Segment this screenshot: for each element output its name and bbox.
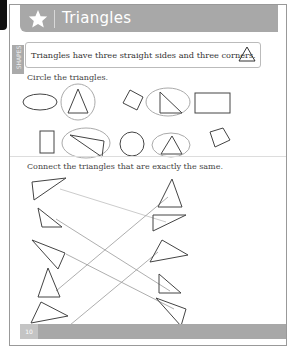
shapes-canvas xyxy=(10,5,286,345)
worksheet-page: Triangles SHAPES Triangles have three st… xyxy=(9,4,287,346)
right-triangle xyxy=(159,274,181,293)
match-line xyxy=(60,189,166,222)
shape-oval xyxy=(23,94,57,110)
left-triangle xyxy=(38,208,62,227)
corner-tab xyxy=(0,0,7,30)
answer-circle xyxy=(146,88,190,116)
connect-instruction: Connect the triangles that are exactly t… xyxy=(27,162,223,171)
shape-square xyxy=(210,128,230,147)
left-triangle xyxy=(31,302,68,323)
match-line xyxy=(64,252,158,330)
shape-rectangle xyxy=(195,93,230,113)
page-footer: 10 xyxy=(20,324,286,339)
answer-circle xyxy=(152,133,190,157)
right-triangle xyxy=(153,215,186,231)
left-triangle xyxy=(32,240,65,269)
section-divider xyxy=(10,156,286,157)
shape-right-triangle xyxy=(160,92,182,113)
match-line xyxy=(56,197,168,291)
shape-scalene-triangle xyxy=(70,135,104,157)
shape-square xyxy=(123,90,143,110)
shape-triangle xyxy=(161,136,182,154)
right-triangle xyxy=(150,240,188,262)
page-number: 10 xyxy=(20,324,38,339)
shape-rectangle-tall xyxy=(40,131,54,153)
shape-triangle xyxy=(68,89,88,113)
left-triangle xyxy=(38,268,60,297)
shape-circle xyxy=(120,132,144,156)
